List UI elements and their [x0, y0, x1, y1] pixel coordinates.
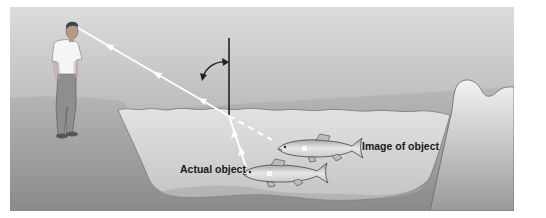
label-image-of-object: Image of object: [362, 140, 439, 152]
diagram-canvas: [10, 7, 514, 211]
label-actual-object: Actual object: [180, 163, 246, 175]
refraction-diagram: Actual object Image of object: [10, 7, 514, 211]
water: [118, 108, 450, 200]
